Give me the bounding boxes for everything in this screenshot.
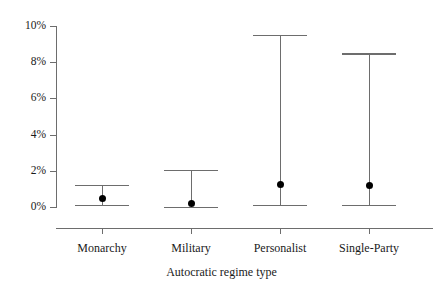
- x-axis-tick: [191, 228, 192, 234]
- y-axis-tick-label-wrap: 10%: [0, 20, 46, 32]
- errorbar-upper-cap: [164, 170, 218, 171]
- errorbar-lower-cap: [253, 205, 307, 206]
- y-axis-tick: [50, 62, 56, 63]
- y-axis-tick: [50, 171, 56, 172]
- errorbar-lower-cap: [75, 205, 129, 206]
- errorbar-upper-cap: [342, 53, 396, 54]
- x-axis-tick: [102, 228, 103, 234]
- x-axis-title: Autocratic regime type: [0, 265, 443, 279]
- x-axis-tick-label-monarchy: Monarchy: [77, 241, 126, 255]
- data-point-marker: [277, 181, 284, 188]
- x-axis-tick-label-single-party: Single-Party: [339, 241, 399, 255]
- errorbar-stem: [280, 35, 281, 205]
- y-axis-tick: [50, 26, 56, 27]
- y-axis-tick: [50, 207, 56, 208]
- y-axis-tick-label: 10%: [0, 20, 46, 32]
- y-axis-tick-label: 6%: [0, 92, 46, 104]
- y-axis-tick-label-wrap: 4%: [0, 129, 46, 141]
- y-axis-line: [56, 26, 57, 208]
- y-axis-tick-label: 2%: [0, 165, 46, 177]
- errorbar-upper-cap: [75, 185, 129, 186]
- y-axis-tick-label: 8%: [0, 56, 46, 68]
- y-axis-tick-label: 0%: [0, 201, 46, 213]
- chart-container: 0%2%4%6%8%10% MonarchyMilitaryPersonalis…: [0, 0, 443, 293]
- data-point-marker: [99, 195, 106, 202]
- x-axis-tick-label-personalist: Personalist: [254, 241, 307, 255]
- errorbar-lower-cap: [342, 205, 396, 206]
- y-axis-tick: [50, 98, 56, 99]
- y-axis-tick-label-wrap: 0%: [0, 201, 46, 213]
- x-axis-tick-label-military: Military: [171, 241, 210, 255]
- x-axis-tick: [369, 228, 370, 234]
- data-point-marker: [366, 182, 373, 189]
- y-axis-tick-label-wrap: 2%: [0, 165, 46, 177]
- y-axis-tick-label-wrap: 8%: [0, 56, 46, 68]
- data-point-marker: [188, 200, 195, 207]
- errorbar-upper-cap: [253, 35, 307, 36]
- y-axis-tick-label-wrap: 6%: [0, 92, 46, 104]
- x-axis-line: [56, 228, 433, 229]
- y-axis-tick-label: 4%: [0, 129, 46, 141]
- errorbar-lower-cap: [164, 207, 218, 208]
- y-axis-tick: [50, 135, 56, 136]
- x-axis-tick: [280, 228, 281, 234]
